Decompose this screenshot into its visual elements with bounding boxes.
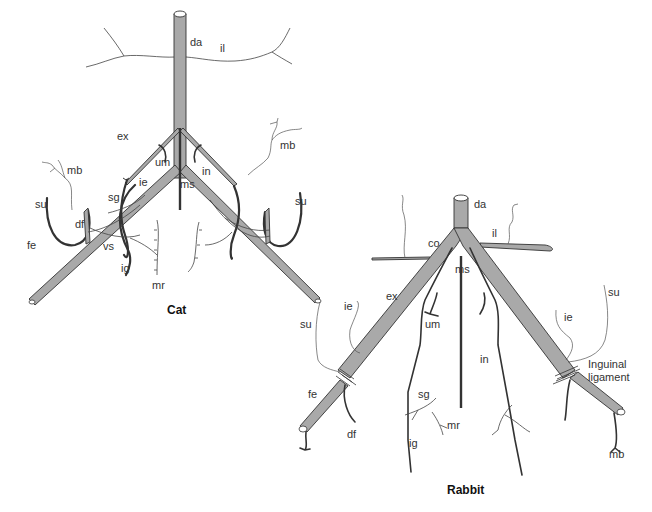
cat-figure: da il ex um ms in mb mb su su sg ie df f… — [27, 11, 321, 317]
diagram-canvas: da il ex um ms in mb mb su su sg ie df f… — [0, 0, 652, 512]
rabbit-right-deep-femoral — [565, 380, 570, 420]
cat-label-vs: vs — [103, 240, 115, 252]
rabbit-left-su-nerve — [316, 302, 340, 372]
rabbit-label-df: df — [347, 428, 357, 440]
rabbit-label-in: in — [480, 353, 489, 365]
rabbit-left-femoral-cut — [299, 426, 307, 432]
rabbit-label-il: il — [492, 227, 497, 239]
rabbit-left-external-iliac — [338, 228, 468, 378]
cat-label-fe: fe — [27, 239, 36, 251]
rabbit-label-ig: ig — [409, 437, 418, 449]
cat-label-mr: mr — [152, 279, 165, 291]
rabbit-left-femoral-branch — [300, 432, 310, 450]
rabbit-right-muscular-branch — [611, 413, 620, 452]
rabbit-right-iliolumbar — [480, 243, 552, 251]
cat-left-femoral-cut — [29, 300, 35, 304]
cat-title: Cat — [167, 303, 186, 317]
cat-label-um: um — [155, 156, 170, 168]
rabbit-left-deep-femoral — [344, 385, 355, 422]
cat-label-mb-right: mb — [280, 139, 295, 151]
cat-right-external-iliac — [180, 165, 320, 303]
cat-label-ms: ms — [180, 178, 195, 190]
cat-label-ie: ie — [139, 176, 148, 188]
rabbit-aorta-cut — [454, 195, 468, 201]
cat-label-su-right: su — [295, 195, 307, 207]
rabbit-label-fe: fe — [308, 388, 317, 400]
rabbit-label-ie-right: ie — [564, 311, 573, 323]
rabbit-label-ie-left: ie — [344, 300, 353, 312]
rabbit-right-nerve — [508, 204, 518, 244]
rabbit-right-umbilical — [480, 293, 485, 314]
cat-label-in: in — [202, 165, 211, 177]
rabbit-right-external-iliac — [454, 228, 575, 378]
cat-left-mr-branch — [130, 238, 157, 255]
rabbit-label-co: co — [428, 237, 440, 249]
rabbit-label-ex: ex — [386, 290, 398, 302]
cat-label-ex: ex — [117, 130, 129, 142]
rabbit-figure: da co il ms ex um in su ie su ie fe df s… — [299, 195, 630, 497]
rabbit-label-ms: ms — [455, 263, 470, 275]
cat-iliolumbar-artery — [86, 28, 292, 67]
rabbit-label-um: um — [425, 318, 440, 330]
rabbit-left-gluteal-branches — [405, 398, 447, 435]
cat-label-sg: sg — [108, 191, 120, 203]
cat-label-il: il — [220, 42, 225, 54]
cat-aorta-cut — [174, 11, 186, 17]
rabbit-left-circumflex — [372, 257, 430, 260]
rabbit-label-inguinal-line1: Inguinal — [588, 358, 627, 370]
cat-label-da: da — [190, 36, 203, 48]
rabbit-label-su-left: su — [300, 318, 312, 330]
rabbit-label-mb: mb — [609, 448, 624, 460]
rabbit-right-su-nerve — [568, 285, 608, 362]
cat-right-middle-rectal — [188, 222, 202, 272]
cat-left-middle-rectal — [154, 220, 158, 275]
rabbit-title: Rabbit — [447, 483, 484, 497]
rabbit-label-su-right: su — [608, 286, 620, 298]
rabbit-label-mr: mr — [447, 419, 460, 431]
rabbit-label-da: da — [474, 198, 487, 210]
rabbit-aorta — [454, 198, 468, 232]
rabbit-label-inguinal-line2: ligament — [588, 371, 630, 383]
cat-right-deep-femoral — [265, 208, 270, 244]
cat-label-df: df — [75, 218, 85, 230]
rabbit-label-sg: sg — [418, 388, 430, 400]
rabbit-right-femoral-cut — [617, 409, 625, 415]
cat-label-ig: ig — [121, 262, 130, 274]
cat-label-su-left: su — [35, 198, 47, 210]
cat-label-mb-left: mb — [67, 164, 82, 176]
rabbit-left-nerve — [402, 195, 405, 258]
